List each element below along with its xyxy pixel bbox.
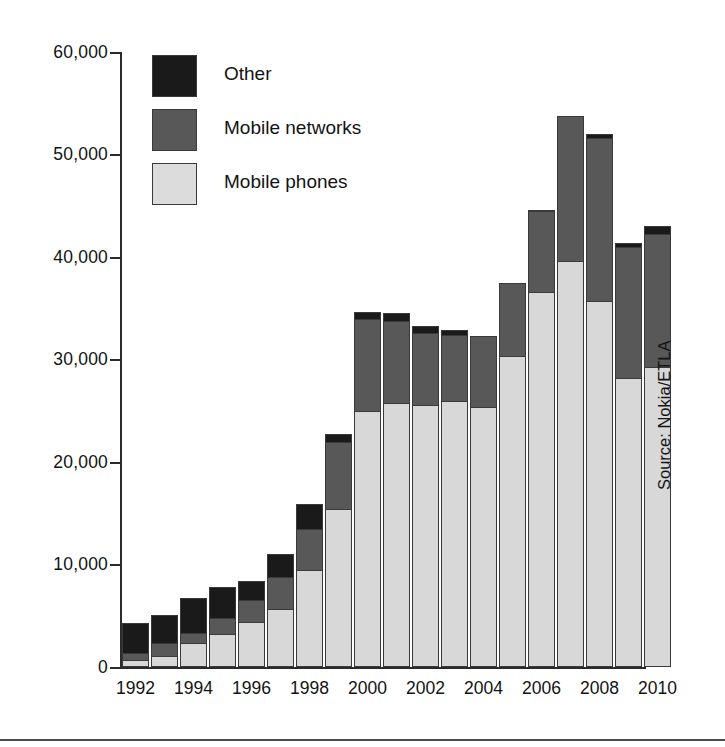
legend-swatch-networks-icon: [152, 109, 197, 151]
bar-1998: [296, 504, 323, 667]
y-axis-tick: [110, 154, 121, 156]
bar-segment-other: [441, 330, 468, 335]
bar-1997: [267, 554, 294, 667]
bar-segment-other: [209, 587, 236, 618]
legend-label-mobile-phones: Mobile phones: [224, 171, 348, 193]
bar-2005: [499, 283, 526, 667]
y-axis-tick: [110, 52, 121, 54]
y-axis-labels: 60,000 50,000 40,000 30,000 20,000 10,00…: [10, 0, 108, 747]
bar-segment-other: [296, 504, 323, 529]
bar-segment-mobile-networks: [441, 335, 468, 401]
y-tick-label: 10,000: [20, 554, 108, 575]
x-axis-labels: 1992199419961998200020022004200620082010: [122, 678, 644, 712]
x-axis-line: [120, 667, 646, 669]
bar-segment-mobile-networks: [528, 211, 555, 292]
x-tick-label-1998: 1998: [290, 678, 329, 699]
bar-segment-other: [354, 312, 381, 318]
bar-segment-mobile-networks: [470, 336, 497, 407]
bar-segment-mobile-phones: [615, 378, 642, 667]
bar-segment-mobile-phones: [383, 403, 410, 667]
x-tick-label-2004: 2004: [464, 678, 503, 699]
x-tick-label-2006: 2006: [522, 678, 561, 699]
bottom-divider: [0, 739, 725, 741]
bar-segment-mobile-networks: [267, 577, 294, 609]
bar-1996: [238, 581, 265, 667]
x-tick-label-2000: 2000: [348, 678, 387, 699]
bar-segment-mobile-phones: [557, 261, 584, 667]
bar-segment-mobile-phones: [528, 292, 555, 667]
bar-2001: [383, 313, 410, 667]
y-tick-label: 50,000: [20, 144, 108, 165]
legend-item-mobile-networks: Mobile networks: [152, 109, 452, 163]
bar-segment-mobile-networks: [296, 529, 323, 570]
legend-swatch-phones-icon: [152, 163, 197, 205]
bar-2007: [557, 116, 584, 667]
bar-segment-mobile-networks: [499, 283, 526, 357]
bar-2006: [528, 210, 555, 667]
bar-segment-other: [267, 554, 294, 577]
bar-segment-other: [238, 581, 265, 600]
bar-segment-mobile-networks: [209, 618, 236, 634]
bar-segment-other: [528, 210, 555, 211]
bar-segment-other: [151, 615, 178, 644]
bar-segment-mobile-phones: [151, 656, 178, 667]
bar-segment-mobile-phones: [267, 609, 294, 667]
bar-1994: [180, 598, 207, 667]
bar-segment-mobile-networks: [325, 442, 352, 510]
y-axis-tick: [110, 257, 121, 259]
x-tick-label-2010: 2010: [638, 678, 677, 699]
bar-segment-other: [383, 313, 410, 320]
x-tick-label-1996: 1996: [232, 678, 271, 699]
bar-2004: [470, 336, 497, 667]
bar-segment-mobile-networks: [151, 643, 178, 655]
legend-label-mobile-networks: Mobile networks: [224, 117, 361, 139]
bar-2000: [354, 312, 381, 667]
chart-legend: Other Mobile networks Mobile phones: [152, 55, 452, 217]
legend-label-other: Other: [224, 63, 272, 85]
bar-segment-other: [644, 226, 671, 234]
bar-segment-other: [180, 598, 207, 633]
bar-segment-mobile-phones: [586, 301, 613, 667]
bar-segment-mobile-phones: [412, 405, 439, 667]
bar-segment-mobile-networks: [238, 600, 265, 622]
x-tick-label-2008: 2008: [580, 678, 619, 699]
legend-item-mobile-phones: Mobile phones: [152, 163, 452, 217]
y-tick-label: 20,000: [20, 452, 108, 473]
bar-segment-mobile-phones: [238, 622, 265, 667]
bar-segment-other: [412, 326, 439, 333]
legend-swatch-other-icon: [152, 55, 197, 97]
y-tick-label: 40,000: [20, 247, 108, 268]
bar-2008: [586, 134, 613, 667]
bar-segment-other: [325, 434, 352, 441]
bar-segment-mobile-phones: [122, 660, 149, 667]
bar-1992: [122, 623, 149, 667]
legend-item-other: Other: [152, 55, 452, 109]
bar-segment-mobile-networks: [586, 138, 613, 301]
bar-segment-mobile-phones: [325, 509, 352, 667]
bar-segment-mobile-networks: [354, 319, 381, 411]
bar-1995: [209, 587, 236, 667]
bar-segment-mobile-phones: [499, 356, 526, 667]
source-note: Source: Nokia/ETLA: [655, 341, 674, 490]
x-tick-label-1992: 1992: [116, 678, 155, 699]
bar-2009: [615, 243, 642, 667]
y-axis-tick: [110, 564, 121, 566]
bar-segment-mobile-networks: [615, 247, 642, 378]
bar-segment-mobile-networks: [412, 333, 439, 405]
bar-segment-mobile-phones: [296, 570, 323, 667]
bar-segment-mobile-networks: [557, 116, 584, 262]
bar-1999: [325, 434, 352, 667]
bar-segment-mobile-phones: [470, 407, 497, 667]
bar-segment-mobile-networks: [180, 633, 207, 643]
bar-segment-mobile-networks: [122, 653, 149, 660]
bar-segment-mobile-phones: [209, 634, 236, 667]
bar-2002: [412, 326, 439, 667]
bar-1993: [151, 615, 178, 667]
x-tick-label-2002: 2002: [406, 678, 445, 699]
bar-segment-mobile-phones: [354, 411, 381, 667]
x-tick-label-1994: 1994: [174, 678, 213, 699]
y-tick-label: 30,000: [20, 349, 108, 370]
bar-segment-mobile-phones: [180, 643, 207, 667]
bar-segment-other: [586, 134, 613, 138]
bar-segment-other: [122, 623, 149, 653]
